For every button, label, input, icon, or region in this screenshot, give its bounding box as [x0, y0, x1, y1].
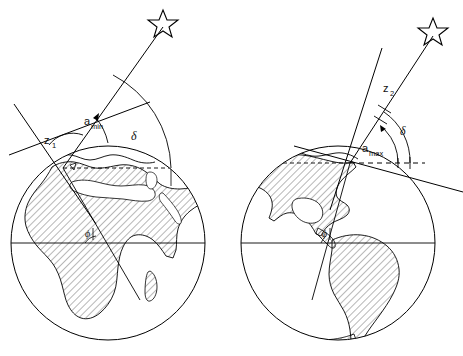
amax-angle-arc: [385, 130, 398, 163]
caspian-sea: [146, 172, 157, 189]
right-delta-label: δ: [400, 124, 406, 138]
amin-subscript: min: [91, 122, 103, 131]
z1-label: z: [44, 134, 50, 146]
z1-subscript: 1: [52, 141, 56, 150]
right-globe-group: [239, 18, 463, 350]
right-phi-label: ϕ: [322, 228, 327, 239]
z2-subscript: 2: [390, 89, 394, 98]
astronomy-figure: z 1 a min δ ϕ: [0, 0, 463, 356]
left-delta-label: δ: [131, 129, 137, 143]
left-phi-label: ϕ: [85, 228, 90, 239]
amax-arrow-head: [380, 125, 386, 132]
diagram-canvas: z 1 a min δ ϕ: [0, 0, 463, 356]
star-symbol: [148, 10, 178, 37]
z2-label: z: [383, 82, 389, 94]
amin-arrow-head: [93, 113, 99, 121]
right-delta-arc: [384, 112, 410, 163]
amin-label: a: [84, 115, 91, 127]
amax-label: a: [362, 142, 369, 154]
left-globe-group: [9, 10, 209, 340]
amax-subscript: max: [369, 149, 383, 158]
star-symbol: [418, 18, 448, 45]
